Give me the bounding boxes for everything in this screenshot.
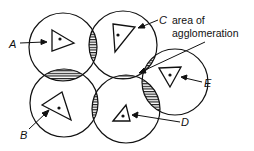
arrow-A [20, 42, 44, 43]
triangle-icon-C [113, 24, 135, 52]
dot-icon-B [57, 106, 60, 109]
dot-icon-E [168, 73, 171, 76]
dot-icon-A [58, 37, 61, 40]
arrowhead-icon-D [132, 112, 138, 118]
triangle-icon-D [113, 105, 130, 121]
arrow-E [185, 78, 202, 82]
arrow-B [29, 113, 46, 129]
diagram-canvas: A C B D E area of agglomeration [0, 0, 254, 151]
label-A: A [8, 38, 16, 50]
arrowhead-icon-C [138, 24, 145, 29]
arrowhead-icon-A [41, 40, 47, 45]
triangle-icon-E [159, 67, 181, 87]
arrowhead-icon-E [181, 75, 187, 80]
market-area-E [142, 49, 208, 115]
triangle-icon-A [52, 30, 74, 51]
label-E: E [204, 77, 212, 89]
annotation-line2: agglomeration [172, 27, 239, 39]
agglomeration-diagram: A C B D E area of agglomeration [0, 0, 254, 151]
dot-icon-D [121, 114, 124, 117]
label-D: D [181, 116, 189, 128]
label-B: B [20, 129, 27, 141]
annotation-line1: area of [172, 14, 205, 26]
label-C: C [159, 14, 167, 26]
dot-icon-C [116, 33, 119, 36]
